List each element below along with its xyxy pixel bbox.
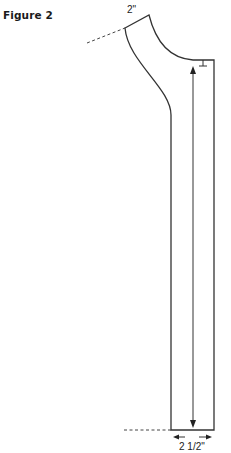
dashed-guide-top bbox=[87, 28, 125, 43]
pattern-diagram: 2" 2 1/2" bbox=[0, 0, 231, 453]
bottom-width-label: 2 1/2" bbox=[179, 441, 205, 452]
arrow-left-icon bbox=[173, 435, 179, 440]
arrow-down-icon bbox=[190, 420, 196, 428]
pattern-outline bbox=[125, 15, 214, 430]
arrow-right-icon bbox=[206, 435, 212, 440]
top-width-label: 2" bbox=[127, 4, 137, 15]
arrow-up-icon bbox=[190, 66, 196, 74]
